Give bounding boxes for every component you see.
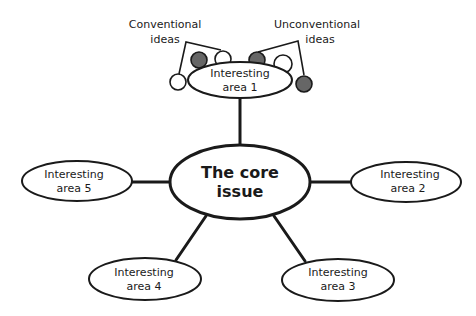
area-4-label-line2: area 4	[126, 280, 161, 293]
unconventional-label-line2: ideas	[305, 33, 335, 46]
conventional-label-line1: Conventional	[129, 18, 202, 31]
core-issue-label-line2: issue	[217, 182, 264, 201]
mind-map-diagram: Conventional ideas Unconventional ideas …	[0, 0, 476, 316]
area-4-node[interactable]	[89, 258, 201, 300]
area-5-node[interactable]	[22, 161, 132, 201]
area-1-label-line2: area 1	[222, 81, 257, 94]
area-5-label-line1: Interesting	[44, 168, 103, 181]
connector-area-4	[176, 216, 206, 260]
conventional-label-line2: ideas	[150, 33, 180, 46]
conventional-idea-circle-dark	[191, 52, 207, 68]
area-4-label-line1: Interesting	[114, 266, 173, 279]
area-3-label-line2: area 3	[320, 280, 355, 293]
conventional-idea-circle-light	[170, 74, 186, 90]
area-5-label-line2: area 5	[56, 182, 91, 195]
connector-area-3	[274, 216, 305, 261]
core-issue-label-line1: The core	[201, 163, 279, 182]
unconventional-idea-circle-dark	[296, 76, 312, 92]
area-3-label-line1: Interesting	[308, 266, 367, 279]
area-1-label-line1: Interesting	[210, 67, 269, 80]
area-2-label-line1: Interesting	[380, 168, 439, 181]
unconventional-label-line1: Unconventional	[274, 18, 360, 31]
area-2-label-line2: area 2	[390, 182, 425, 195]
